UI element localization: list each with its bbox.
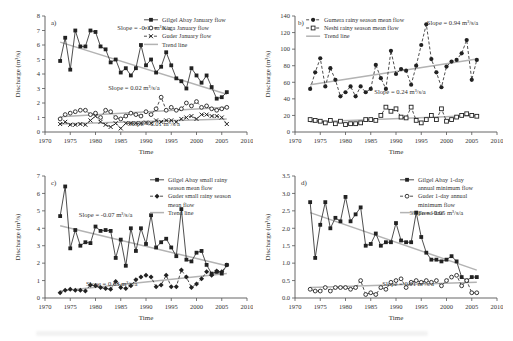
svg-text:80: 80: [284, 62, 291, 69]
svg-text:Slope = 0.01 m³/s/a: Slope = 0.01 m³/s/a: [128, 120, 180, 127]
svg-text:Gilgel Abay January flow: Gilgel Abay January flow: [162, 16, 226, 23]
svg-text:Guder 1-day annual: Guder 1-day annual: [418, 192, 467, 199]
svg-text:5: 5: [37, 207, 40, 214]
svg-text:mean flow: mean flow: [168, 201, 195, 208]
svg-text:1980: 1980: [89, 137, 102, 144]
svg-text:140: 140: [280, 12, 290, 19]
svg-text:Discharge (m³/s): Discharge (m³/s): [264, 50, 272, 98]
svg-text:40: 40: [284, 95, 291, 102]
panel-b: 0204060801001201401970197519801985199019…: [263, 8, 503, 166]
svg-text:1995: 1995: [415, 303, 428, 310]
svg-text:Gilgel Abay small rainy: Gilgel Abay small rainy: [168, 176, 228, 183]
svg-text:1985: 1985: [114, 137, 127, 144]
svg-text:1990: 1990: [390, 303, 403, 310]
svg-text:7: 7: [37, 172, 41, 179]
svg-text:2005: 2005: [465, 303, 478, 310]
svg-text:1970: 1970: [289, 303, 302, 310]
svg-text:1990: 1990: [140, 137, 153, 144]
svg-text:3: 3: [37, 85, 40, 92]
svg-text:Gumera rainy season mean flow: Gumera rainy season mean flow: [324, 16, 405, 23]
svg-text:2: 2: [37, 99, 40, 106]
svg-text:Trend line: Trend line: [418, 209, 444, 216]
svg-text:1: 1: [37, 114, 40, 121]
svg-text:1970: 1970: [289, 137, 302, 144]
svg-text:Koga January flow: Koga January flow: [162, 24, 210, 31]
svg-text:2.5: 2.5: [282, 207, 290, 214]
svg-text:Slope = 0.02 m³/s/a: Slope = 0.02 m³/s/a: [108, 84, 160, 91]
svg-text:1970: 1970: [39, 137, 52, 144]
svg-text:100: 100: [280, 45, 290, 52]
svg-text:2000: 2000: [440, 137, 453, 144]
figure-page: 0123456781970197519801985199019952000200…: [0, 0, 513, 341]
svg-text:2010: 2010: [241, 303, 254, 310]
svg-text:Discharge (m³/s): Discharge (m³/s): [14, 50, 22, 98]
svg-text:2010: 2010: [491, 137, 504, 144]
svg-text:1985: 1985: [364, 303, 377, 310]
svg-text:c): c): [51, 179, 57, 187]
svg-text:7: 7: [37, 27, 41, 34]
svg-text:1980: 1980: [339, 137, 352, 144]
svg-text:Time: Time: [389, 148, 404, 156]
svg-text:0.0: 0.0: [282, 294, 290, 301]
svg-text:120: 120: [280, 29, 290, 36]
svg-text:1975: 1975: [314, 137, 327, 144]
svg-text:Discharge (m³/s): Discharge (m³/s): [264, 213, 272, 261]
svg-text:4: 4: [37, 225, 41, 232]
panel-a: 0123456781970197519801985199019952000200…: [13, 8, 253, 166]
svg-text:6: 6: [37, 190, 41, 197]
svg-text:2005: 2005: [215, 137, 228, 144]
svg-text:3.0: 3.0: [282, 190, 290, 197]
svg-text:1995: 1995: [415, 137, 428, 144]
svg-text:0: 0: [287, 128, 290, 135]
svg-text:1985: 1985: [364, 137, 377, 144]
svg-text:4: 4: [37, 70, 41, 77]
svg-text:2010: 2010: [241, 137, 254, 144]
svg-text:minimum flow: minimum flow: [418, 201, 455, 208]
svg-text:0: 0: [37, 128, 40, 135]
svg-text:Slope = 0.24 m³/s/a: Slope = 0.24 m³/s/a: [374, 88, 426, 95]
svg-text:1.5: 1.5: [282, 242, 290, 249]
svg-text:1995: 1995: [165, 303, 178, 310]
scan-shadow: [36, 331, 428, 336]
svg-text:1: 1: [37, 277, 40, 284]
svg-text:Time: Time: [389, 314, 404, 322]
svg-text:season mean flow: season mean flow: [168, 184, 213, 191]
svg-text:5: 5: [37, 56, 40, 63]
svg-text:2005: 2005: [465, 137, 478, 144]
svg-text:a): a): [51, 19, 57, 27]
svg-text:3: 3: [37, 242, 40, 249]
svg-text:2: 2: [37, 259, 40, 266]
panel-a-chart: 0123456781970197519801985199019952000200…: [13, 8, 253, 166]
svg-text:1975: 1975: [314, 303, 327, 310]
svg-text:1990: 1990: [140, 303, 153, 310]
svg-text:2000: 2000: [190, 137, 203, 144]
svg-text:Slope = 0.01 m³/s/a: Slope = 0.01 m³/s/a: [382, 280, 434, 287]
panel-b-chart: 0204060801001201401970197519801985199019…: [263, 8, 503, 166]
svg-text:8: 8: [37, 12, 40, 19]
svg-text:Trend line: Trend line: [324, 32, 350, 39]
svg-text:1980: 1980: [89, 303, 102, 310]
svg-text:Slope = 0.03 m³/s/a: Slope = 0.03 m³/s/a: [86, 280, 138, 287]
svg-text:1995: 1995: [165, 137, 178, 144]
svg-text:0.5: 0.5: [282, 277, 290, 284]
svg-text:3.5: 3.5: [282, 172, 290, 179]
svg-text:2000: 2000: [440, 303, 453, 310]
svg-text:b): b): [298, 19, 305, 27]
panel-c: 0123456719701975198019851990199520002005…: [13, 168, 253, 334]
svg-text:2010: 2010: [491, 303, 504, 310]
svg-text:Trend line: Trend line: [162, 41, 188, 48]
svg-text:Neshi rainy season mean flow: Neshi rainy season mean flow: [324, 24, 399, 31]
svg-text:6: 6: [37, 41, 41, 48]
svg-text:Slope = 0.94 m³/s/a: Slope = 0.94 m³/s/a: [427, 19, 479, 26]
panel-d: 0.00.51.01.52.02.53.03.51970197519801985…: [263, 168, 503, 334]
panel-c-chart: 0123456719701975198019851990199520002005…: [13, 168, 253, 334]
svg-text:Time: Time: [139, 148, 154, 156]
svg-text:Time: Time: [139, 314, 154, 322]
svg-text:2.0: 2.0: [282, 225, 290, 232]
svg-text:1970: 1970: [39, 303, 52, 310]
svg-text:Slope = -0.07 m³/s/a: Slope = -0.07 m³/s/a: [79, 211, 133, 218]
svg-text:Guder small rainy season: Guder small rainy season: [168, 192, 231, 199]
svg-text:d): d): [301, 179, 308, 187]
panel-d-chart: 0.00.51.01.52.02.53.03.51970197519801985…: [263, 168, 503, 334]
svg-text:1975: 1975: [64, 137, 77, 144]
